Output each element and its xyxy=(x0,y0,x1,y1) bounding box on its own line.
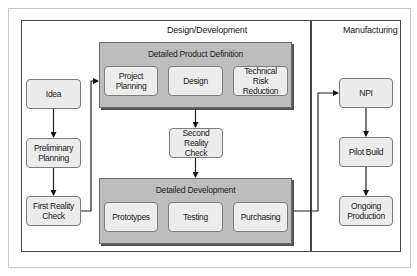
node-preliminary-planning: Preliminary Planning xyxy=(26,138,81,168)
node-purchasing: Purchasing xyxy=(233,202,288,232)
node-technical-risk-reduction: Technical Risk Reduction xyxy=(233,66,288,96)
section-divider xyxy=(310,20,312,252)
section-label-manufacturing: Manufacturing xyxy=(343,25,397,35)
node-prototypes: Prototypes xyxy=(104,202,158,232)
node-second-reality-check: Second Reality Check xyxy=(169,128,223,158)
node-ongoing-production: Ongoing Production xyxy=(339,196,393,226)
node-design: Design xyxy=(168,66,223,96)
node-idea: Idea xyxy=(26,79,81,109)
group-title: Detailed Product Definition xyxy=(100,49,291,59)
section-label-design: Design/Development xyxy=(167,25,247,35)
node-npi: NPI xyxy=(339,78,393,108)
group-title: Detailed Development xyxy=(100,185,291,195)
node-pilot-build: Pilot Build xyxy=(339,137,393,167)
node-testing: Testing xyxy=(168,202,223,232)
node-project-planning: Project Planning xyxy=(104,66,158,96)
node-first-reality-check: First Reality Check xyxy=(26,196,81,226)
